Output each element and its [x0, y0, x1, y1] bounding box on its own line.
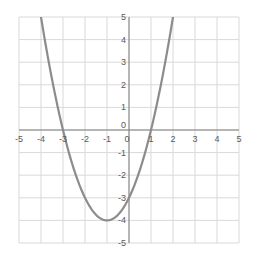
- x-tick-label: -3: [59, 134, 67, 144]
- y-tick-label: 3: [121, 57, 126, 67]
- x-tick-label: 0: [124, 134, 129, 144]
- x-tick-label: -2: [81, 134, 89, 144]
- y-tick-label: -2: [118, 170, 126, 180]
- x-tick-label: 2: [170, 134, 175, 144]
- x-tick-label: 4: [214, 134, 219, 144]
- x-tick-label: 1: [148, 134, 153, 144]
- parabola-chart: -5-4-3-2-1012345 543210-1-2-3-4-5: [0, 0, 254, 260]
- y-tick-label: 4: [121, 35, 126, 45]
- x-tick-label: -5: [15, 134, 23, 144]
- y-tick-label: -1: [118, 148, 126, 158]
- x-tick-label: 5: [236, 134, 241, 144]
- x-tick-label: -4: [37, 134, 45, 144]
- y-tick-label: 1: [121, 102, 126, 112]
- y-tick-label: -5: [118, 238, 126, 248]
- y-tick-label: 5: [121, 12, 126, 22]
- axes: [19, 17, 239, 243]
- y-tick-label: 2: [121, 80, 126, 90]
- y-tick-label: -4: [118, 215, 126, 225]
- y-tick-label: 0: [121, 120, 126, 130]
- x-axis-tick-labels: -5-4-3-2-1012345: [15, 134, 242, 144]
- x-tick-label: -1: [103, 134, 111, 144]
- y-tick-label: -3: [118, 193, 126, 203]
- x-tick-label: 3: [192, 134, 197, 144]
